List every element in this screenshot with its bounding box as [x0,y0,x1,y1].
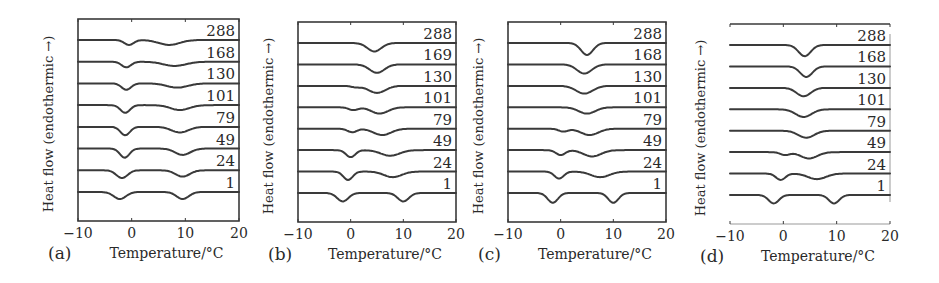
x-tick-label: 0 [556,226,565,242]
dsc-trace-1 [508,193,666,203]
x-axis-label: Temperature/°C [328,246,442,262]
curve-label: 130 [206,65,235,83]
curve-label: 79 [433,111,452,129]
x-tick-label: 0 [346,226,355,242]
curve-label: 130 [857,70,886,88]
x-tick-label: −10 [63,225,93,241]
curve-label: 1 [876,177,886,195]
x-tick-label: −10 [715,228,745,244]
curve-label: 168 [206,44,235,62]
curve-label: 24 [867,156,886,174]
x-tick-label: 0 [779,228,788,244]
panel-c: −1001020Temperature/°C(c)Heat flow (endo… [471,22,675,264]
curve-label: 24 [216,152,235,170]
x-tick-label: 10 [604,226,622,242]
curve-label: 79 [643,111,662,129]
curve-label: 169 [423,46,452,64]
dsc-trace-101 [78,105,239,113]
x-tick-label: 0 [127,225,136,241]
curve-label: 288 [206,22,235,40]
x-tick-label: 10 [828,228,846,244]
dsc-trace-1 [730,195,890,203]
curve-label: 1 [225,174,235,192]
curve-label: 49 [216,131,235,149]
panel-d: −1001020Temperature/°C(d)Heat flow (endo… [693,24,899,266]
curve-label: 288 [857,27,886,45]
y-axis-label: Heat flow (endothermic →) [261,38,276,215]
dsc-trace-24 [730,174,890,180]
curve-label: 49 [433,132,452,150]
panel-a: −1001020Temperature/°C(a)Heat flow (endo… [41,19,248,263]
curve-label: 79 [216,109,235,127]
curve-label: 168 [633,46,662,64]
curve-label: 130 [423,68,452,86]
y-axis-label: Heat flow (endothermic →) [693,40,708,217]
curve-label: 1 [652,175,662,193]
panel-label: (c) [478,244,501,264]
panel-label: (d) [700,246,724,266]
panel-label: (b) [268,244,292,264]
curve-label: 24 [643,154,662,172]
x-tick-label: −10 [283,226,313,242]
curve-label: 49 [643,132,662,150]
panel-b: −1001020Temperature/°C(b)Heat flow (endo… [261,22,465,264]
dsc-figure: −1001020Temperature/°C(a)Heat flow (endo… [0,0,939,283]
x-tick-label: −10 [493,226,523,242]
dsc-trace-49 [78,149,239,158]
x-tick-label: 10 [394,226,412,242]
curve-label: 101 [206,87,235,105]
x-tick-label: 10 [176,225,194,241]
curve-label: 288 [423,25,452,43]
curve-label: 130 [633,68,662,86]
x-tick-label: 20 [230,225,248,241]
dsc-trace-1 [298,193,456,201]
x-axis-label: Temperature/°C [109,245,223,261]
x-tick-label: 20 [657,226,675,242]
x-tick-label: 20 [881,228,899,244]
dsc-trace-24 [508,172,666,179]
dsc-trace-79 [78,127,239,135]
dsc-trace-1 [78,192,239,199]
curve-label: 101 [633,89,662,107]
curve-label: 1 [442,175,452,193]
curve-label: 79 [867,113,886,131]
curve-label: 168 [857,48,886,66]
curve-label: 101 [857,91,886,109]
x-axis-label: Temperature/°C [538,246,652,262]
panel-label: (a) [48,243,71,263]
x-axis-label: Temperature/°C [761,248,875,264]
curve-label: 101 [423,89,452,107]
y-axis-label: Heat flow (endothermic →) [471,38,486,215]
curve-label: 24 [433,154,452,172]
dsc-trace-24 [298,172,456,180]
dsc-trace-24 [78,170,239,178]
curve-label: 49 [867,134,886,152]
curve-label: 288 [633,25,662,43]
y-axis-label: Heat flow (endothermic →) [41,36,56,213]
x-tick-label: 20 [447,226,465,242]
